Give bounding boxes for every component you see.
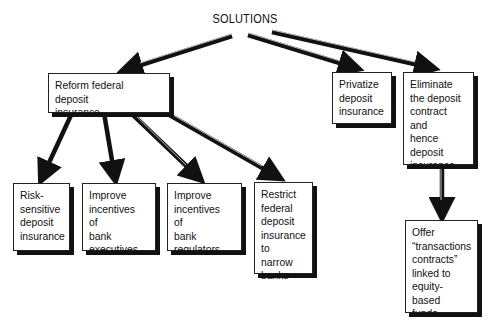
arrow-reform-to-regulators <box>131 113 199 178</box>
node-improve-incentives-bank-regulators: Improve incentives of bank regulators <box>167 183 242 251</box>
node-label: Offer “transactions contracts” linked to… <box>412 226 465 321</box>
node-improve-incentives-bank-executives: Improve incentives of bank executives <box>82 183 156 251</box>
node-label: Restrict federal deposit insurance to na… <box>261 188 302 283</box>
diagram-title: SOLUTIONS <box>29 12 460 26</box>
node-label: Improve incentives of bank regulators <box>174 189 229 257</box>
node-restrict-to-narrow-banks: Restrict federal deposit insurance to na… <box>254 182 313 274</box>
node-label: Improve incentives of bank executives <box>89 189 143 257</box>
node-label: Privatize deposit insurance <box>339 78 380 119</box>
arrow-reform-to-risk <box>42 113 72 178</box>
node-offer-transactions-contracts: Offer “transactions contracts” linked to… <box>405 220 478 313</box>
node-label: Risk- sensitive deposit insurance <box>20 189 59 243</box>
node-label: Reform federal deposit insurance <box>55 79 152 120</box>
arrow-reform-to-restrict <box>166 113 278 177</box>
node-risk-sensitive-deposit-insurance: Risk- sensitive deposit insurance <box>13 183 70 251</box>
node-label: Eliminate the deposit contract and hence… <box>410 78 461 173</box>
solutions-diagram: SOLUTIONS Reform federal deposit insuran… <box>0 0 490 328</box>
node-reform-federal-deposit-insurance: Reform federal deposit insurance <box>48 73 170 113</box>
node-eliminate-deposit-contract: Eliminate the deposit contract and hence… <box>403 72 474 165</box>
node-privatize-deposit-insurance: Privatize deposit insurance <box>332 72 392 124</box>
arrow-solutions-to-reform <box>125 36 232 70</box>
arrow-reform-to-executives <box>104 113 115 178</box>
